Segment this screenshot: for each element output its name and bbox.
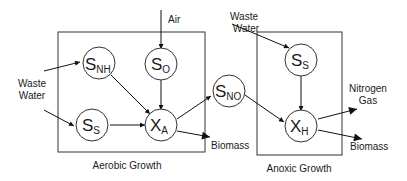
node-xh-main: X [290, 117, 301, 136]
waste-water-label-2-line2: Water [233, 23, 260, 34]
node-sno: SNO [213, 75, 245, 107]
node-ss-aerobic-sub: S [93, 125, 100, 136]
node-xh: XH [285, 110, 317, 142]
aerobic-growth-label: Aerobic Growth [93, 160, 162, 171]
edge-sno-to-xh [245, 95, 284, 122]
waste-water-label-1-line1: Waste [18, 78, 46, 89]
node-ss-aerobic-main: S [82, 116, 93, 135]
edge-xa-to-sno [177, 96, 211, 119]
node-xa-sub: A [161, 125, 168, 136]
node-ss-anoxic: SS [285, 44, 317, 76]
biomass-label-aerobic: Biomass [211, 140, 249, 151]
node-ss-anoxic-main: S [291, 51, 302, 70]
node-xa: XA [145, 109, 177, 141]
node-sno-main: S [215, 82, 226, 101]
edge-snh-to-xa [111, 75, 150, 114]
waste-water-label-1-line2: Water [19, 90, 46, 101]
node-xh-sub: H [301, 126, 308, 137]
node-so: SO [145, 48, 177, 80]
waste-water-label-2-line1: Waste [230, 11, 258, 22]
edge-waste-to-ss [44, 110, 74, 126]
node-snh: SNH [83, 47, 115, 79]
node-snh-sub: NH [96, 64, 110, 75]
node-ss-aerobic: SS [76, 109, 108, 141]
edge-xh-to-biomass [318, 130, 362, 139]
biomass-label-anoxic: Biomass [350, 141, 388, 152]
bayesian-network-diagram: Aerobic Growth Anoxic Growth SNH SO SS X… [0, 0, 407, 181]
node-sno-sub: NO [226, 91, 241, 102]
nitrogen-gas-label-line1: Nitrogen [349, 83, 387, 94]
anoxic-growth-label: Anoxic Growth [266, 163, 331, 174]
air-label: Air [168, 14, 181, 25]
node-snh-main: S [85, 55, 96, 74]
edge-xh-to-nitrogen-gas [318, 109, 357, 119]
node-xa-main: X [150, 116, 161, 135]
node-so-main: S [151, 55, 162, 74]
nitrogen-gas-label-line2: Gas [359, 95, 377, 106]
node-so-sub: O [162, 64, 170, 75]
node-ss-anoxic-sub: S [302, 60, 309, 71]
edge-waste-to-snh [44, 62, 80, 71]
